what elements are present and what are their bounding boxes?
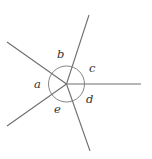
angle-labels: a b c d e (34, 47, 96, 116)
angle-label-e: e (54, 102, 61, 116)
ray-upper-right (67, 15, 90, 84)
angle-diagram: a b c d e (0, 0, 152, 159)
rays (7, 15, 141, 151)
angle-label-d: d (86, 92, 93, 106)
angle-label-a: a (34, 77, 41, 91)
angle-label-b: b (57, 47, 64, 61)
angle-label-c: c (89, 61, 96, 75)
